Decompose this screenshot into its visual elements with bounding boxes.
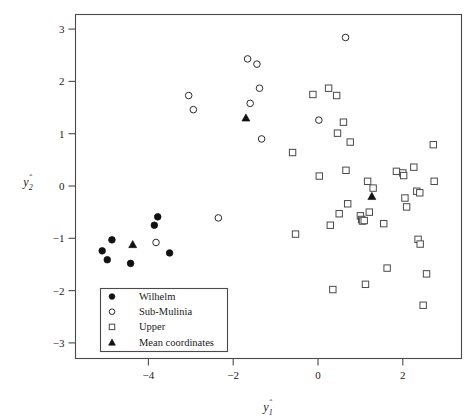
data-point-open-square xyxy=(347,139,353,145)
legend-label: Upper xyxy=(139,321,166,332)
data-point-filled-circle xyxy=(99,248,106,255)
data-point-open-square xyxy=(316,173,322,179)
data-point-open-square xyxy=(393,168,399,174)
data-point-open-circle xyxy=(254,61,261,68)
data-point-open-square xyxy=(370,185,376,191)
data-point-open-circle xyxy=(316,117,323,124)
data-point-open-circle xyxy=(185,92,192,99)
data-point-open-square xyxy=(420,302,426,308)
data-point-open-square xyxy=(330,286,336,292)
scatter-plot-figure: 3210−1−2−3 −4−202 WilhelmSub-MuliniaUppe… xyxy=(0,0,473,419)
y-tick-label: 2 xyxy=(59,75,65,87)
data-point-open-square xyxy=(327,222,333,228)
legend-marker-open-circle xyxy=(109,309,115,315)
data-point-filled-circle xyxy=(109,237,116,244)
data-point-open-square xyxy=(417,241,423,247)
data-point-open-square xyxy=(336,211,342,217)
legend-label: Sub-Mulinia xyxy=(139,306,192,317)
y-tick-label: 3 xyxy=(59,23,65,35)
data-point-open-square xyxy=(366,209,372,215)
x-tick-label: 0 xyxy=(315,369,321,381)
data-point-open-square xyxy=(381,220,387,226)
data-point-open-square xyxy=(334,130,340,136)
data-point-filled-circle xyxy=(151,222,158,229)
data-point-open-square xyxy=(362,281,368,287)
data-point-open-square xyxy=(361,217,367,223)
data-point-open-square xyxy=(340,119,346,125)
legend: WilhelmSub-MuliniaUpperMean coordinates xyxy=(101,289,228,352)
data-point-open-square xyxy=(292,231,298,237)
legend-label: Wilhelm xyxy=(139,291,175,302)
legend-marker-open-square xyxy=(109,324,114,329)
y-tick-label: 0 xyxy=(59,180,65,192)
data-point-filled-circle xyxy=(127,260,134,267)
data-point-open-square xyxy=(430,141,436,147)
data-point-open-square xyxy=(400,172,406,178)
x-tick-label: 2 xyxy=(400,369,406,381)
x-tick-label: −4 xyxy=(143,369,155,381)
data-point-open-square xyxy=(402,195,408,201)
data-point-open-circle xyxy=(256,85,263,92)
data-point-open-square xyxy=(431,178,437,184)
data-point-open-square xyxy=(325,85,331,91)
data-point-filled-circle xyxy=(104,256,111,263)
y-tick-label: −2 xyxy=(53,285,65,297)
legend-label: Mean coordinates xyxy=(139,337,214,348)
y-tick-label: 1 xyxy=(59,128,65,140)
data-point-open-circle xyxy=(153,239,160,246)
chart-canvas: 3210−1−2−3 −4−202 WilhelmSub-MuliniaUppe… xyxy=(0,0,473,419)
legend-marker-filled-circle xyxy=(109,294,115,300)
data-point-open-square xyxy=(423,271,429,277)
y-tick-label: −1 xyxy=(53,232,65,244)
data-point-open-circle xyxy=(190,106,197,113)
figure-background xyxy=(0,0,473,419)
data-point-open-circle xyxy=(244,56,251,63)
data-point-filled-circle xyxy=(154,214,161,221)
data-point-open-square xyxy=(417,190,423,196)
data-point-open-circle xyxy=(247,100,254,107)
data-point-open-square xyxy=(289,149,295,155)
data-point-filled-circle xyxy=(166,250,173,257)
y-tick-label: −3 xyxy=(53,337,65,349)
x-tick-label: −2 xyxy=(227,369,239,381)
data-point-open-circle xyxy=(215,215,222,222)
data-point-open-square xyxy=(403,204,409,210)
data-point-open-square xyxy=(364,178,370,184)
data-point-open-square xyxy=(333,92,339,98)
data-point-open-square xyxy=(344,201,350,207)
data-point-open-square xyxy=(384,265,390,271)
data-point-open-circle xyxy=(258,136,265,143)
data-point-open-square xyxy=(310,91,316,97)
data-point-open-circle xyxy=(342,34,349,41)
data-point-open-square xyxy=(343,167,349,173)
data-point-open-square xyxy=(411,164,417,170)
